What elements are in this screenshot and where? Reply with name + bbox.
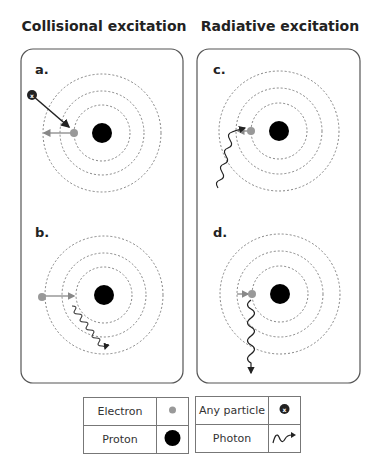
- legend-table-right: Any particle x Photon: [195, 396, 301, 453]
- panel-a-atom: x: [27, 74, 161, 192]
- legend-row-photon: Photon: [196, 425, 301, 453]
- panel-label-a: a.: [35, 62, 49, 77]
- legend-label-electron: Electron: [84, 398, 157, 426]
- panel-radiative: [197, 49, 360, 383]
- electron-icon: [38, 293, 46, 301]
- legend-row-any-particle: Any particle x: [196, 397, 301, 425]
- any-particle-icon: x: [269, 397, 300, 421]
- incoming-photon-wave: [216, 128, 245, 188]
- proton-icon: [92, 123, 112, 143]
- electron-icon: [248, 290, 256, 298]
- panel-label-d: d.: [213, 225, 227, 240]
- panel-d-atom: [220, 234, 340, 373]
- legend-label-photon: Photon: [196, 425, 269, 453]
- proton-icon: [157, 426, 188, 450]
- photon-wave-icon: [269, 425, 300, 449]
- emitted-photon-wave: [72, 306, 105, 349]
- proton-icon: [94, 285, 114, 305]
- svg-text:x: x: [283, 406, 287, 413]
- emitted-photon-wave: [248, 300, 255, 373]
- legend-table-left: Electron Proton: [83, 397, 189, 454]
- electron-icon: [157, 398, 188, 422]
- proton-icon: [270, 284, 290, 304]
- panel-b-atom: [38, 236, 163, 354]
- electron-icon: [247, 127, 255, 135]
- legend-row-proton: Proton: [84, 426, 189, 454]
- proton-icon: [269, 121, 289, 141]
- legend-label-proton: Proton: [84, 426, 157, 454]
- svg-text:x: x: [30, 92, 34, 99]
- panel-label-b: b.: [35, 225, 49, 240]
- panel-label-c: c.: [213, 62, 226, 77]
- panel-collisional: [21, 49, 183, 383]
- legend-label-any-particle: Any particle: [196, 397, 269, 425]
- diagram-canvas: x: [0, 0, 380, 466]
- electron-icon: [70, 129, 78, 137]
- panel-c-atom: [216, 71, 339, 191]
- legend-row-electron: Electron: [84, 398, 189, 426]
- particle-trajectory-arrow: [33, 96, 69, 127]
